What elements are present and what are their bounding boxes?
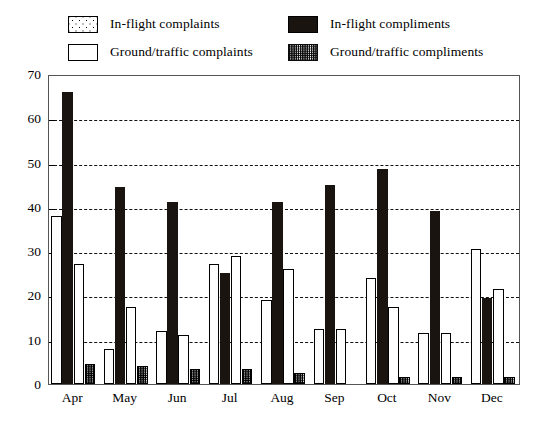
- legend-label: Ground/traffic complaints: [110, 44, 253, 60]
- legend-label: In-flight compliments: [330, 16, 450, 32]
- black-square-icon: [288, 16, 318, 33]
- bar-apr-in-flight-compliments: [62, 92, 73, 384]
- x-tick-label-oct: Oct: [377, 390, 397, 406]
- bar-nov-in-flight-complaints: [418, 333, 429, 384]
- y-tick-label: 40: [28, 201, 42, 215]
- bar-dec-in-flight-complaints: [471, 249, 482, 384]
- bar-may-in-flight-compliments: [115, 187, 126, 384]
- bar-dec-in-flight-compliments: [482, 298, 493, 384]
- legend-label: In-flight complaints: [110, 16, 220, 32]
- plot-wrapper: 010203040506070 AprMayJunJulAugSepOctNov…: [0, 66, 534, 431]
- bar-group-oct: [366, 76, 410, 384]
- x-tick-label-jun: Jun: [168, 390, 187, 406]
- bar-jul-ground-traffic-complaints: [231, 256, 242, 384]
- bar-dec-ground-traffic-complaints: [493, 289, 504, 384]
- bar-nov-ground-traffic-compliments: [452, 377, 463, 384]
- y-tick-label: 20: [28, 290, 42, 304]
- bar-nov-in-flight-compliments: [430, 211, 441, 384]
- bar-aug-in-flight-complaints: [261, 300, 272, 384]
- bar-aug-in-flight-compliments: [272, 202, 283, 384]
- bar-group-apr: [51, 76, 95, 384]
- bar-oct-ground-traffic-complaints: [388, 307, 399, 385]
- bar-oct-ground-traffic-compliments: [399, 377, 410, 384]
- plot-area: [48, 75, 520, 385]
- bar-sep-in-flight-compliments: [325, 185, 336, 384]
- bar-apr-in-flight-complaints: [51, 216, 62, 384]
- legend-item-in-flight-compliments: In-flight compliments: [288, 14, 450, 34]
- x-tick-label-apr: Apr: [62, 390, 83, 406]
- bar-group-jul: [209, 76, 253, 384]
- bar-group-may: [104, 76, 148, 384]
- bar-jul-ground-traffic-compliments: [242, 369, 253, 385]
- bar-group-jun: [156, 76, 200, 384]
- legend-item-ground-traffic-complaints: Ground/traffic complaints: [68, 42, 253, 62]
- legend-item-ground-traffic-compliments: Ground/traffic compliments: [288, 42, 483, 62]
- hatched-square-icon: [288, 44, 318, 61]
- x-tick-label-aug: Aug: [270, 390, 293, 406]
- y-tick-label: 70: [28, 68, 42, 82]
- bar-may-ground-traffic-compliments: [137, 366, 148, 384]
- y-axis: 010203040506070: [0, 66, 46, 386]
- x-tick-label-jul: Jul: [222, 390, 238, 406]
- x-tick-label-nov: Nov: [428, 390, 451, 406]
- bar-group-sep: [314, 76, 358, 384]
- bar-oct-in-flight-compliments: [377, 169, 388, 384]
- bar-dec-ground-traffic-compliments: [504, 377, 515, 384]
- chart-legend: In-flight complaints In-flight complimen…: [0, 0, 534, 66]
- bar-nov-ground-traffic-complaints: [441, 333, 452, 384]
- bar-jun-in-flight-complaints: [156, 331, 167, 384]
- bar-oct-in-flight-complaints: [366, 278, 377, 384]
- x-tick-label-sep: Sep: [324, 390, 344, 406]
- bar-jun-ground-traffic-complaints: [178, 335, 189, 384]
- y-tick-label: 30: [28, 245, 42, 259]
- y-tick-label: 50: [28, 157, 42, 171]
- bar-jun-in-flight-compliments: [167, 202, 178, 384]
- y-tick-label: 0: [34, 378, 41, 392]
- bar-chart: In-flight complaints In-flight complimen…: [0, 0, 534, 431]
- bar-aug-ground-traffic-complaints: [283, 269, 294, 384]
- x-tick-label-dec: Dec: [481, 390, 503, 406]
- bar-groups: [49, 76, 519, 384]
- legend-item-in-flight-complaints: In-flight complaints: [68, 14, 220, 34]
- white-square-icon: [68, 44, 98, 61]
- bar-aug-ground-traffic-compliments: [294, 373, 305, 384]
- bar-group-dec: [471, 76, 515, 384]
- bar-sep-in-flight-complaints: [314, 329, 325, 384]
- bar-sep-ground-traffic-complaints: [336, 329, 347, 384]
- bar-jul-in-flight-compliments: [220, 273, 231, 384]
- bar-may-in-flight-complaints: [104, 349, 115, 384]
- bar-jun-ground-traffic-compliments: [190, 369, 201, 385]
- y-tick-label: 10: [28, 334, 42, 348]
- bar-apr-ground-traffic-compliments: [85, 364, 96, 384]
- legend-label: Ground/traffic compliments: [330, 44, 483, 60]
- bar-apr-ground-traffic-complaints: [74, 264, 85, 384]
- bar-jul-in-flight-complaints: [209, 264, 220, 384]
- y-tick-label: 60: [28, 113, 42, 127]
- x-axis: AprMayJunJulAugSepOctNovDec: [48, 388, 520, 418]
- bar-group-nov: [418, 76, 462, 384]
- dotted-square-icon: [68, 16, 98, 33]
- bar-may-ground-traffic-complaints: [126, 307, 137, 385]
- bar-group-aug: [261, 76, 305, 384]
- x-tick-label-may: May: [112, 390, 137, 406]
